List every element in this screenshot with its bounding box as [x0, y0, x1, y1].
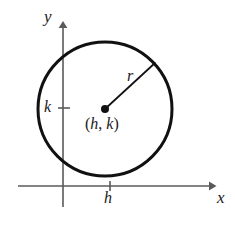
radius-label: r — [127, 68, 133, 84]
center-point-label: (h, k) — [85, 116, 119, 132]
x-axis-label: x — [217, 189, 225, 206]
y-axis-arrow-icon — [59, 21, 68, 28]
center-label-close-paren: ) — [113, 115, 118, 132]
x-axis-arrow-icon — [209, 182, 217, 191]
y-axis-tick-label-k: k — [44, 99, 51, 115]
x-axis-tick-label-h: h — [104, 190, 112, 206]
y-axis-label: y — [44, 8, 52, 25]
geometry-figure: y x k h r (h, k) — [0, 0, 235, 227]
figure-canvas — [0, 0, 235, 227]
center-point-dot — [101, 105, 109, 113]
